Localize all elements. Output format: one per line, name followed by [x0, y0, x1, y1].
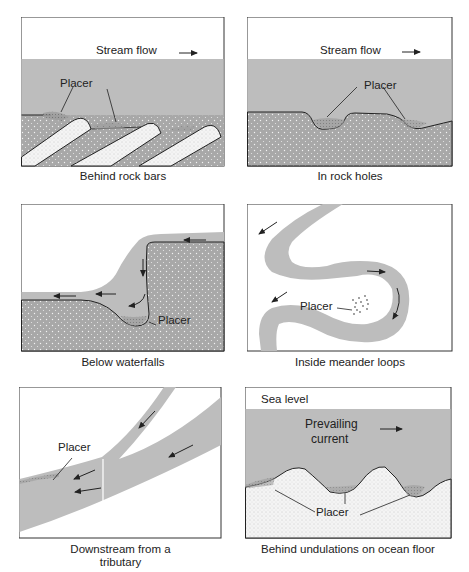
current-label-line2: current — [311, 432, 348, 446]
flow-label: Stream flow — [320, 44, 381, 56]
placer-label: Placer — [158, 314, 191, 326]
placer-label: Placer — [316, 506, 349, 518]
panel-rock-holes: Stream flow Placer — [247, 17, 453, 167]
tributary-illustration — [19, 387, 222, 539]
current-label-line1: Prevailing — [305, 417, 358, 431]
placer-label: Placer — [364, 79, 397, 91]
panel-meander: Placer — [247, 204, 453, 352]
placer-label: Placer — [300, 300, 333, 312]
panel-waterfalls: Placer — [21, 204, 225, 352]
placer-label: Placer — [58, 441, 91, 453]
panel-ocean-floor: Sea level Prevailing current Placer — [245, 387, 452, 539]
placer-label: Placer — [60, 77, 93, 89]
caption-ocean-floor: Behind undulations on ocean floor — [240, 543, 456, 556]
caption-tributary-line1: Downstream from a — [19, 543, 222, 556]
rock-bars-illustration — [21, 17, 225, 167]
caption-waterfalls: Below waterfalls — [21, 356, 225, 369]
caption-meander: Inside meander loops — [247, 356, 453, 369]
caption-rock-bars: Behind rock bars — [21, 170, 225, 183]
rock-holes-illustration — [247, 17, 453, 167]
meander-illustration — [247, 204, 453, 352]
panel-tributary: Placer — [19, 387, 222, 539]
flow-label: Stream flow — [96, 44, 157, 56]
caption-tributary-line2: tributary — [19, 556, 222, 569]
sea-level-label: Sea level — [261, 393, 308, 405]
caption-tributary: Downstream from a tributary — [19, 543, 222, 569]
panel-rock-bars: Stream flow Placer — [21, 17, 225, 167]
waterfalls-illustration — [21, 204, 225, 352]
caption-rock-holes: In rock holes — [247, 170, 453, 183]
